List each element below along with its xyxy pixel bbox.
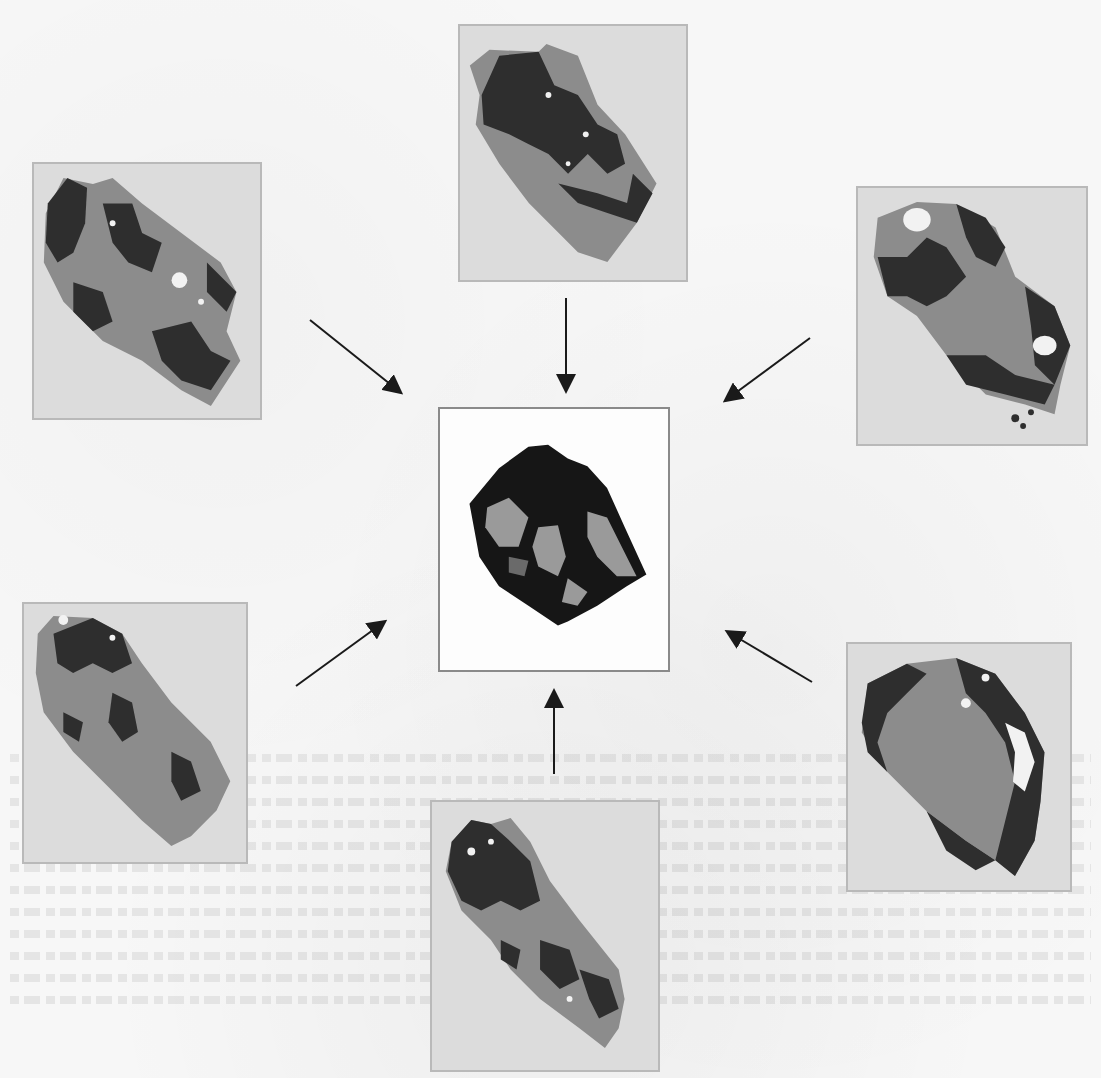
particle-image-top [460,26,686,280]
particle-panel-top [458,24,688,282]
particle-image-upper-left [34,164,260,418]
particle-panel-lower-left [22,602,248,864]
particle-panel-lower-right [846,642,1072,892]
particle-panel-bottom [430,800,660,1072]
center-particle-panel [438,407,670,672]
particle-image-upper-right [858,188,1086,444]
particle-image-bottom [432,802,658,1070]
center-particle-image [440,409,668,670]
particle-image-lower-right [848,644,1070,890]
particle-image-lower-left [24,604,246,862]
particle-panel-upper-left [32,162,262,420]
particle-panel-upper-right [856,186,1088,446]
